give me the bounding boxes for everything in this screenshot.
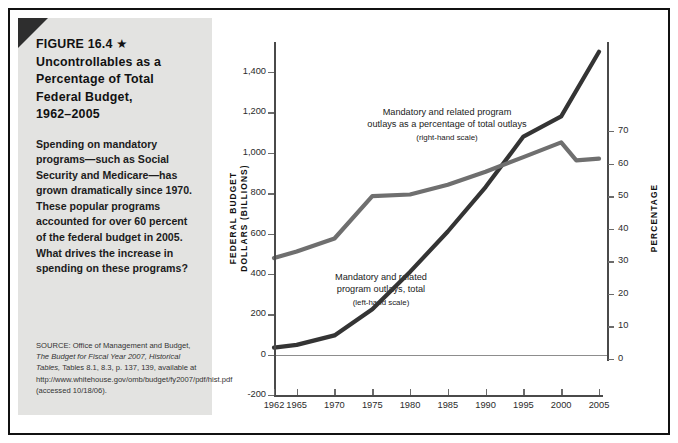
- figure-title: FIGURE 16.4 ★ Uncontrollables as a Perce…: [36, 36, 196, 124]
- x-tick-label-1995: 1995: [506, 400, 540, 410]
- x-tick-1995: [523, 389, 524, 395]
- figure-container: FIGURE 16.4 ★ Uncontrollables as a Perce…: [8, 8, 670, 435]
- figure-title-line-3: Percentage of Total: [36, 72, 154, 86]
- y2-tick-70: [608, 131, 614, 132]
- y-tick-label-200: 200: [222, 308, 266, 318]
- source-remainder: Tables 8.1, 8.3, p. 137, 139, available …: [36, 363, 232, 394]
- x-axis-line: [274, 395, 603, 397]
- y-tick-label-0: 0: [222, 349, 266, 359]
- y2-tick-label-30: 30: [618, 255, 628, 265]
- x-tick-1965: [297, 389, 298, 395]
- x-tick-1970: [334, 389, 335, 395]
- x-tick-label-1975: 1975: [355, 400, 389, 410]
- corner-fold-decoration: [18, 18, 48, 48]
- chart-plot-area: FEDERAL BUDGETDOLLARS (BILLIONS) PERCENT…: [212, 18, 668, 433]
- y2-tick-50: [608, 196, 614, 197]
- y2-tick-label-0: 0: [618, 353, 623, 363]
- y-tick-1,000: [268, 153, 274, 154]
- figure-title-line-5: 1962–2005: [36, 107, 100, 121]
- y2-tick-label-60: 60: [618, 158, 628, 168]
- y2-tick-10: [608, 326, 614, 327]
- x-tick-1980: [410, 389, 411, 395]
- x-tick-label-1965: 1965: [280, 400, 314, 410]
- y-tick-label-600: 600: [222, 228, 266, 238]
- x-tick-label-1985: 1985: [431, 400, 465, 410]
- y2-tick-label-20: 20: [618, 288, 628, 298]
- y-tick-800: [268, 193, 274, 194]
- x-tick-label-2000: 2000: [544, 400, 578, 410]
- x-tick-2005: [599, 389, 600, 395]
- y2-tick-label-40: 40: [618, 223, 628, 233]
- figure-title-line-4: Federal Budget,: [36, 90, 133, 104]
- figure-sidebar: FIGURE 16.4 ★ Uncontrollables as a Perce…: [18, 18, 212, 415]
- y-tick-label-1,200: 1,200: [222, 106, 266, 116]
- y2-tick-0: [608, 359, 614, 360]
- y2-tick-30: [608, 261, 614, 262]
- y-axis-left-line: [274, 42, 276, 397]
- x-tick-label-1990: 1990: [469, 400, 503, 410]
- x-tick-1975: [372, 389, 373, 395]
- y-axis-right-line: [607, 42, 609, 361]
- x-tick-2000: [561, 389, 562, 395]
- figure-title-line-2: Uncontrollables as a: [36, 55, 161, 69]
- x-tick-1985: [448, 389, 449, 395]
- y2-tick-20: [608, 294, 614, 295]
- figure-source-note: SOURCE: Office of Management and Budget,…: [36, 340, 202, 396]
- series-line-total: [274, 52, 599, 348]
- x-tick-1990: [486, 389, 487, 395]
- x-tick-label-2005: 2005: [582, 400, 616, 410]
- y2-tick-60: [608, 164, 614, 165]
- chart-series-svg: [212, 18, 672, 428]
- y2-tick-40: [608, 229, 614, 230]
- y2-tick-label-50: 50: [618, 190, 628, 200]
- y-tick-1,200: [268, 112, 274, 113]
- y-tick-1,400: [268, 72, 274, 73]
- y-tick-200: [268, 314, 274, 315]
- y-tick-600: [268, 234, 274, 235]
- x-tick-label-1980: 1980: [393, 400, 427, 410]
- y-tick--200: [268, 395, 274, 396]
- y-tick-label-1,400: 1,400: [222, 66, 266, 76]
- figure-caption: Spending on mandatory programs—such as S…: [36, 137, 196, 277]
- y2-tick-label-10: 10: [618, 320, 628, 330]
- source-prefix: SOURCE: Office of Management and Budget,: [36, 341, 190, 350]
- x-tick-label-1970: 1970: [317, 400, 351, 410]
- y-tick-label--200: -200: [222, 389, 266, 399]
- y-tick-label-1,000: 1,000: [222, 147, 266, 157]
- y-tick-label-400: 400: [222, 268, 266, 278]
- y-tick-label-800: 800: [222, 187, 266, 197]
- y2-tick-label-70: 70: [618, 125, 628, 135]
- y-tick-0: [268, 355, 274, 356]
- figure-title-line-1: FIGURE 16.4 ★: [36, 37, 128, 51]
- x-tick-1962: [274, 389, 275, 395]
- y-tick-400: [268, 274, 274, 275]
